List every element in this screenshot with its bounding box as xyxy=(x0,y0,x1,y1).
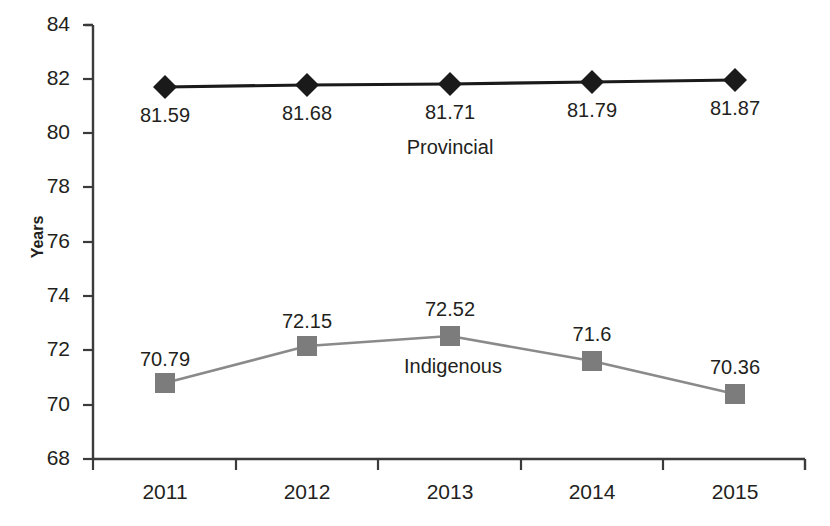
x-tick-label-2011: 2011 xyxy=(105,480,225,504)
data-label-indigenous-2011: 70.79 xyxy=(110,348,220,371)
indigenous-marker-2013 xyxy=(440,326,460,346)
provincial-marker-2013 xyxy=(438,72,462,96)
axis-lines xyxy=(85,25,805,470)
y-tick-label-80: 80 xyxy=(18,120,70,144)
x-tick-label-2012: 2012 xyxy=(247,480,367,504)
provincial-marker-2014 xyxy=(580,70,604,94)
data-label-provincial-2013: 81.71 xyxy=(395,101,505,124)
x-axis-ticks xyxy=(93,459,663,470)
chart-canvas xyxy=(0,0,830,526)
y-tick-label-68: 68 xyxy=(18,446,70,470)
data-label-provincial-2015: 81.87 xyxy=(680,97,790,120)
x-tick-label-2013: 2013 xyxy=(390,480,510,504)
x-tick-label-2015: 2015 xyxy=(675,480,795,504)
y-tick-label-74: 74 xyxy=(18,283,70,307)
x-tick-label-2014: 2014 xyxy=(532,480,652,504)
y-tick-label-72: 72 xyxy=(18,337,70,361)
line-chart: Years 84 82 80 78 76 74 72 70 68 2011 20… xyxy=(0,0,830,526)
provincial-marker-2012 xyxy=(295,73,319,97)
series-label-provincial: Provincial xyxy=(350,136,550,159)
indigenous-marker-2011 xyxy=(155,373,175,393)
data-label-indigenous-2015: 70.36 xyxy=(680,356,790,379)
y-tick-label-82: 82 xyxy=(18,66,70,90)
data-label-provincial-2014: 81.79 xyxy=(537,99,647,122)
y-tick-label-78: 78 xyxy=(18,174,70,198)
indigenous-marker-2014 xyxy=(582,351,602,371)
provincial-marker-2011 xyxy=(153,75,177,99)
indigenous-marker-2012 xyxy=(297,336,317,356)
y-axis-ticks xyxy=(83,25,93,459)
series-provincial xyxy=(153,68,747,99)
series-label-indigenous: Indigenous xyxy=(353,355,553,378)
data-label-provincial-2012: 81.68 xyxy=(252,102,362,125)
provincial-marker-2015 xyxy=(723,68,747,92)
data-label-indigenous-2014: 71.6 xyxy=(537,323,647,346)
y-tick-label-76: 76 xyxy=(18,229,70,253)
data-label-provincial-2011: 81.59 xyxy=(110,104,220,127)
y-tick-label-84: 84 xyxy=(18,12,70,36)
data-label-indigenous-2012: 72.15 xyxy=(252,310,362,333)
y-tick-label-70: 70 xyxy=(18,392,70,416)
data-label-indigenous-2013: 72.52 xyxy=(395,298,505,321)
indigenous-marker-2015 xyxy=(725,384,745,404)
